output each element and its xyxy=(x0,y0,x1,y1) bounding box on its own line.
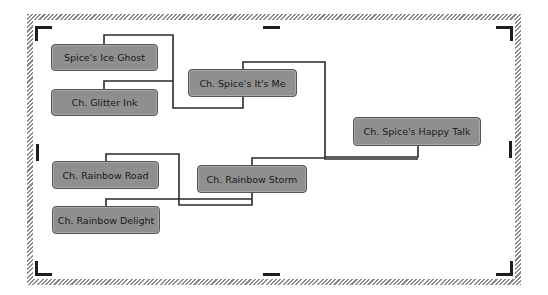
node-ch-spices-its-me[interactable]: Ch. Spice's It's Me xyxy=(188,69,297,97)
node-spices-ice-ghost[interactable]: Spice's Ice Ghost xyxy=(51,44,158,71)
node-label: Ch. Spice's It's Me xyxy=(199,78,285,89)
node-ch-glitter-ink[interactable]: Ch. Glitter Ink xyxy=(51,89,158,116)
node-label: Spice's Ice Ghost xyxy=(64,52,145,63)
node-ch-rainbow-storm[interactable]: Ch. Rainbow Storm xyxy=(197,165,307,193)
node-label: Ch. Rainbow Delight xyxy=(58,215,154,226)
node-label: Ch. Rainbow Road xyxy=(62,170,148,181)
node-label: Ch. Glitter Ink xyxy=(72,97,138,108)
edge-glitter-ink-to-its-me xyxy=(104,81,173,89)
node-ch-spices-happy-talk[interactable]: Ch. Spice's Happy Talk xyxy=(353,117,481,146)
node-ch-rainbow-road[interactable]: Ch. Rainbow Road xyxy=(52,161,159,189)
node-label: Ch. Spice's Happy Talk xyxy=(364,126,471,137)
edge-rainbow-storm-to-happy-talk xyxy=(252,158,418,165)
node-ch-rainbow-delight[interactable]: Ch. Rainbow Delight xyxy=(52,206,160,234)
node-label: Ch. Rainbow Storm xyxy=(207,174,298,185)
